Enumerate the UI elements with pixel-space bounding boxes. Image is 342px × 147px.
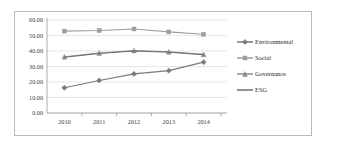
- series-environmental: [62, 60, 206, 91]
- x-axis-tick-label: 2014: [197, 118, 209, 125]
- x-axis-tick-label: 2010: [58, 118, 70, 125]
- y-axis-tick-label: 0.00: [32, 109, 43, 116]
- legend-item-esg[interactable]: ESG: [237, 86, 267, 93]
- data-point-marker: [166, 68, 171, 73]
- y-axis-tick-label: 30.00: [29, 63, 43, 70]
- data-point-marker: [132, 27, 136, 31]
- line-chart: 60.0050.0040.0030.0020.0010.000.00201020…: [15, 12, 311, 135]
- legend-item-environmental[interactable]: Environmental: [237, 38, 293, 45]
- legend-label: Social: [255, 54, 271, 61]
- x-axis-tick-label: 2011: [93, 118, 105, 125]
- y-axis-tick-label: 40.00: [29, 47, 43, 54]
- series-social: [62, 27, 205, 36]
- legend-label: ESG: [255, 86, 267, 93]
- chart-figure: 60.0050.0040.0030.0020.0010.000.00201020…: [0, 0, 342, 147]
- data-point-marker: [97, 29, 101, 33]
- y-axis-tick-label: 20.00: [29, 78, 43, 85]
- x-axis-tick-label: 2013: [163, 118, 175, 125]
- data-point-marker: [131, 71, 136, 76]
- y-axis-tick-label: 60.00: [29, 16, 43, 23]
- data-point-marker: [167, 30, 171, 34]
- data-point-marker: [62, 29, 66, 33]
- data-point-marker: [242, 39, 247, 44]
- data-point-marker: [62, 85, 67, 90]
- legend-item-governance[interactable]: Governance: [237, 70, 286, 77]
- x-axis-tick-label: 2012: [128, 118, 140, 125]
- y-axis-tick-label: 50.00: [29, 32, 43, 39]
- legend-label: Governance: [255, 70, 286, 77]
- legend-label: Environmental: [255, 38, 293, 45]
- legend-item-social[interactable]: Social: [237, 54, 271, 61]
- data-point-marker: [201, 60, 206, 65]
- y-axis-tick-label: 10.00: [29, 94, 43, 101]
- chart-plot-frame: 60.0050.0040.0030.0020.0010.000.00201020…: [14, 11, 312, 136]
- data-point-marker: [243, 56, 247, 60]
- data-point-marker: [202, 32, 206, 36]
